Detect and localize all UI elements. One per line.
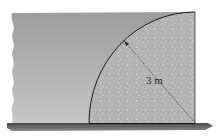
diagram-canvas: 3 m: [0, 0, 216, 138]
radius-label: 3 m: [146, 74, 163, 86]
ground-base: [7, 123, 213, 131]
